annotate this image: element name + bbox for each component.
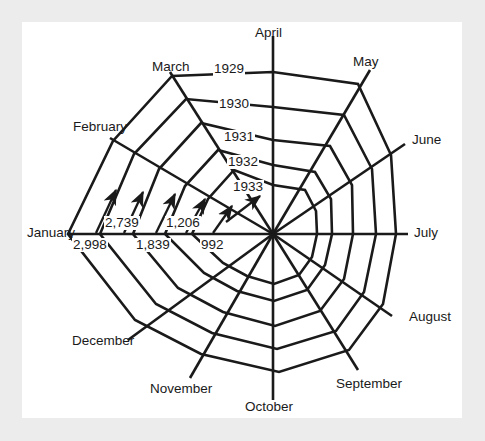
axis-label-october: October <box>245 400 293 414</box>
axis-label-february: February <box>73 120 127 134</box>
axis-label-july: July <box>414 226 438 240</box>
spoke-may <box>273 70 370 234</box>
value-label-1206: 1,206 <box>165 216 201 230</box>
ring-label-1930: 1930 <box>218 97 250 111</box>
chart-page: January February March April May June Ju… <box>0 0 485 441</box>
axis-label-january: January <box>27 226 75 240</box>
ring-label-1929: 1929 <box>213 62 245 76</box>
value-label-2998: 2,998 <box>72 238 108 252</box>
value-label-1839: 1,839 <box>135 238 171 252</box>
axis-label-june: June <box>412 133 441 147</box>
axis-label-may: May <box>353 55 379 69</box>
spoke-november <box>190 234 273 378</box>
value-label-992: 992 <box>200 238 225 252</box>
axis-label-august: August <box>409 310 451 324</box>
spoke-september <box>273 234 358 370</box>
axis-label-march: March <box>152 60 190 74</box>
value-label-2739: 2,739 <box>104 216 140 230</box>
axis-label-september: September <box>336 377 402 391</box>
ring-label-1933: 1933 <box>232 180 264 194</box>
axis-label-april: April <box>255 26 282 40</box>
ring-label-1931: 1931 <box>223 130 255 144</box>
axis-label-december: December <box>72 334 134 348</box>
axis-label-november: November <box>150 382 212 396</box>
ring-label-1932: 1932 <box>227 155 259 169</box>
